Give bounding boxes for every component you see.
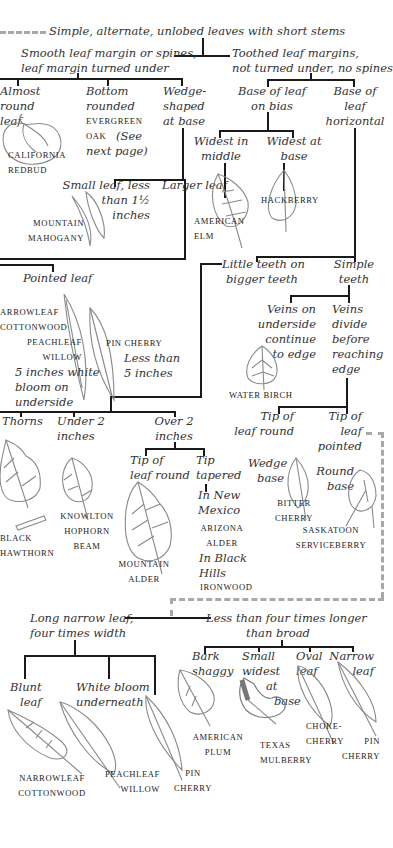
texas-mulberry-leaf-illustration [236,676,292,736]
water-birch-leaf-illustration [242,344,286,392]
connector [24,655,156,657]
simple-teeth-label: Simpleteeth [330,257,378,287]
species-hackberry: HACKBERRY [261,193,319,208]
tip-tapered-label: Tiptapered [196,453,241,483]
blunt-leaf-label: Bluntleaf [10,680,42,710]
in-new-mexico-label: In NewMexico [198,488,240,518]
less-than-5-inches-label: Less than5 inches [124,351,180,381]
american-plum-leaf-illustration [176,668,220,728]
connector [110,396,112,412]
species-mountain-alder: MOUNTAINALDER [114,557,174,587]
connector [24,655,26,679]
connector [267,79,355,81]
species-peachleaf-willow: PEACHLEAFWILLOW [24,335,82,365]
connector [354,128,356,258]
species-saskatoon-serviceberry: SASKATOONSERVICEBERRY [286,523,376,553]
connector [200,263,222,265]
dashed-connector-title [0,31,46,34]
wedge-base-label: Wedgebase [248,456,284,486]
branch-smooth-margin: Smooth leaf margin or spines, [21,46,197,61]
dashed-connector [381,432,384,598]
under-2-inches-label: Under 2inches [57,414,105,444]
species-black-hawthorn: BLACKHAWTHORN [0,531,54,561]
connector [267,112,269,132]
connector [0,258,186,260]
wedge-shaped-label: Wedge-shapedat base [163,84,206,129]
little-teeth-label: Little teeth onbigger teeth [222,257,302,287]
species-water-birch: WATER BIRCH [229,388,293,403]
connector [125,617,211,619]
species-pin-cherry: PIN CHERRY [106,336,162,351]
pin-cherry-leaf-illustration-3 [334,660,380,740]
connector [200,263,202,398]
species-knowlton-hophornbeam: KNOWLTONHOPHORNBEAM [56,509,118,554]
key-title: Simple, alternate, unlobed leaves with s… [49,24,345,39]
connector [278,406,348,408]
species-ironwood: IRONWOOD [200,580,253,595]
base-horizontal-label: Base ofleafhorizontal [322,84,388,129]
long-narrow-leaf-label: Long narrow leaf,four times width [30,611,134,641]
five-inches-white-bloom-label: 5 inches whitebloom onunderside [15,365,100,410]
species-arizona-alder: ARIZONAALDER [196,521,248,551]
species-pin-cherry-3: PINCHERRY [338,734,380,764]
veins-divide-label: Veinsdividebeforereachingedge [332,302,383,377]
species-california-redbud: CALIFORNIAREDBUD [8,148,66,178]
over-2-inches-label: Over 2inches [150,414,198,444]
branch-toothed-margin: Toothed leaf margins, [232,46,359,61]
tip-round-label-right: Tip ofleaf round [232,409,294,439]
base-on-bias-label: Base of leafon bias [236,84,308,114]
branch-smooth-margin-2: leaf margin turned under [21,61,169,76]
connector [108,655,110,679]
bottom-rounded-label: Bottomrounded [86,84,135,114]
connector [290,295,350,297]
branch-toothed-margin-2: not turned under, no spines [232,61,393,76]
connector [154,655,156,695]
dashed-connector [170,598,384,601]
connector [346,378,348,408]
connector [219,130,294,132]
dashed-connector [170,598,173,616]
widest-middle-label: Widest inmiddle [190,134,252,164]
connector [74,640,76,656]
tip-round-label-left: Tip ofleaf round [130,453,190,483]
connector [182,128,184,180]
species-pin-cherry-2: PINCHERRY [168,766,218,796]
species-arrowleaf-cottonwood: ARROWLEAFCOTTONWOOD [0,305,67,335]
connector [0,78,183,80]
connector [204,646,354,648]
less-than-four-times-label: Less than four times longerthan broad [206,611,350,641]
connector [145,448,205,450]
see-next-page-note: (Seenext page) [86,129,142,159]
connector [0,264,54,266]
black-hawthorn-leaf-illustration [0,438,46,534]
species-mountain-mahogany: MOUNTAINMAHOGANY [22,216,84,246]
species-bitter-cherry: BITTERCHERRY [266,496,322,526]
tip-pointed-label: Tip ofleafpointed [316,409,362,454]
pointed-leaf-label: Pointed leaf [23,271,92,286]
widest-base-label: Widest atbase [262,134,326,164]
connector [110,396,202,398]
in-black-hills-label: In BlackHills [199,551,247,581]
thorns-label: Thorns [2,414,43,429]
species-american-elm: AMERICANELM [194,214,245,244]
connector [0,411,176,413]
